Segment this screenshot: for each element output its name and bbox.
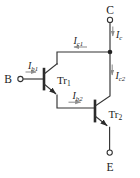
- tr1-collector-line: [45, 64, 57, 74]
- terminal-e-label: E: [106, 161, 113, 173]
- tr2-collector-line: [96, 54, 110, 106]
- current-label-ib1: Ib1: [27, 60, 38, 72]
- current-label-ic: Ic: [115, 29, 122, 41]
- current-label-ic2-sub: c2: [119, 75, 126, 82]
- current-label-ic-sub: c: [119, 34, 122, 41]
- circuit-diagram: C B E Tr1 Tr2 Ib1 Ic1 Ic Ic2 Ib2: [0, 0, 140, 178]
- tr2-emitter-line: [96, 116, 107, 125]
- tr2-label-main: Tr: [109, 108, 119, 120]
- wire-top-to-tr1-collector: [57, 52, 110, 64]
- tr1-emitter-line: [45, 84, 56, 93]
- tr1-label: Tr1: [57, 74, 71, 88]
- current-label-ic2: Ic2: [115, 70, 126, 82]
- terminal-e-node: [107, 150, 112, 155]
- terminal-b-label: B: [4, 73, 12, 85]
- current-label-ic1-sub: c1: [77, 40, 83, 47]
- terminal-b-node: [18, 76, 23, 81]
- tr2-label: Tr2: [109, 108, 123, 122]
- current-label-ic1: Ic1: [73, 35, 84, 47]
- darlington-pair-schematic: C B E Tr1 Tr2 Ib1 Ic1 Ic Ic2 Ib2: [0, 0, 140, 178]
- tr1-label-main: Tr: [57, 74, 67, 86]
- tr2-label-sub: 2: [119, 113, 123, 122]
- terminal-c-label: C: [106, 4, 114, 16]
- current-label-ib1-sub: b1: [31, 65, 38, 72]
- current-label-ib2: Ib2: [72, 90, 84, 102]
- current-label-ib2-sub: b2: [76, 95, 83, 102]
- tr1-label-sub: 1: [67, 79, 71, 88]
- terminal-c-node: [107, 17, 112, 22]
